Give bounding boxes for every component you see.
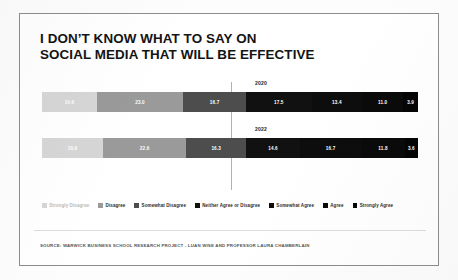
legend-item[interactable]: Strongly Disagree [42, 203, 89, 208]
footer-divider [34, 230, 426, 231]
legend-label: Agree [330, 203, 343, 208]
legend-label: Disagree [106, 203, 126, 208]
legend-item[interactable]: Strongly Agree [353, 203, 394, 208]
bar-group-2022: 2022 16.622.616.314.616.711.83.6 [42, 138, 418, 158]
legend-label: Somewhat Disagree [142, 203, 186, 208]
bar-segment[interactable]: 23.0 [97, 92, 183, 112]
stacked-bar[interactable]: 16.622.616.314.616.711.83.6 [42, 138, 418, 158]
legend-swatch-icon [42, 203, 47, 208]
bar-segment[interactable]: 3.6 [405, 138, 418, 158]
legend-swatch-icon [134, 203, 139, 208]
legend-label: Strongly Disagree [49, 203, 89, 208]
bar-segment[interactable]: 11.8 [361, 138, 404, 158]
bar-segment[interactable]: 13.4 [312, 92, 362, 112]
source-note: SOURCE: WARWICK BUSINESS SCHOOL RESEARCH… [40, 243, 310, 248]
legend-swatch-icon [353, 203, 358, 208]
bar-segment[interactable]: 16.3 [186, 138, 246, 158]
legend-swatch-icon [98, 203, 103, 208]
chart-legend: Strongly DisagreeDisagreeSomewhat Disagr… [42, 203, 420, 208]
bar-segment[interactable]: 14.6 [246, 138, 300, 158]
legend-swatch-icon [195, 203, 200, 208]
legend-swatch-icon [269, 203, 274, 208]
stacked-bar[interactable]: 14.623.016.717.513.411.03.9 [42, 92, 418, 112]
bar-segment[interactable]: 16.7 [300, 138, 361, 158]
bar-year-label: 2022 [255, 126, 267, 132]
legend-label: Strongly Agree [360, 203, 394, 208]
legend-item[interactable]: Agree [323, 203, 343, 208]
legend-label: Neither Agree or Disagree [202, 203, 260, 208]
bar-segment[interactable]: 22.6 [103, 138, 186, 158]
legend-label: Somewhat Agree [276, 203, 314, 208]
bar-segment[interactable]: 16.6 [42, 138, 103, 158]
legend-item[interactable]: Somewhat Agree [269, 203, 314, 208]
bar-segment[interactable]: 14.6 [42, 92, 97, 112]
slide-page: I DON’T KNOW WHAT TO SAY ON SOCIAL MEDIA… [0, 0, 458, 280]
legend-swatch-icon [323, 203, 328, 208]
legend-item[interactable]: Somewhat Disagree [134, 203, 186, 208]
bar-segment[interactable]: 16.7 [183, 92, 246, 112]
stacked-bar-chart: 2020 14.623.016.717.513.411.03.9 2022 16… [20, 76, 440, 196]
bar-segment[interactable]: 17.5 [246, 92, 312, 112]
legend-item[interactable]: Neither Agree or Disagree [195, 203, 260, 208]
bar-segment[interactable]: 3.9 [403, 92, 418, 112]
bar-group-2020: 2020 14.623.016.717.513.411.03.9 [42, 92, 418, 112]
bar-year-label: 2020 [255, 80, 267, 86]
chart-card: I DON’T KNOW WHAT TO SAY ON SOCIAL MEDIA… [19, 13, 439, 266]
legend-item[interactable]: Disagree [98, 203, 125, 208]
bar-segment[interactable]: 11.0 [362, 92, 403, 112]
page-title: I DON’T KNOW WHAT TO SAY ON SOCIAL MEDIA… [40, 31, 410, 62]
